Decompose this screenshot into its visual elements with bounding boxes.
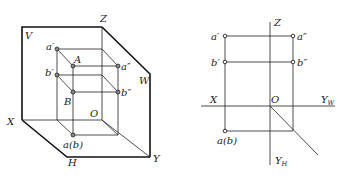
label-a-dprime: a″ <box>297 31 307 42</box>
label-Y-W: YW <box>321 94 336 107</box>
point-b-prime <box>55 73 59 77</box>
45-degree-line <box>270 106 318 155</box>
projection-diagram: Z V W X H Y O a′ A a″ b′ B b″ a(b) Z a′ … <box>0 0 340 178</box>
label-a-dprime: a″ <box>121 61 131 72</box>
point-a-prime <box>223 34 227 38</box>
label-O: O <box>90 108 98 119</box>
label-A: A <box>73 54 81 65</box>
label-b-prime: b′ <box>45 67 54 78</box>
label-a-prime: a′ <box>211 31 220 42</box>
label-b-prime: b′ <box>211 57 220 68</box>
label-X: X <box>209 94 218 105</box>
label-b-dprime: b″ <box>297 57 307 68</box>
label-Y-H: YH <box>275 155 288 168</box>
label-Z: Z <box>273 17 282 28</box>
proj-line <box>102 49 118 66</box>
label-O: O <box>271 94 279 105</box>
label-a-prime: a′ <box>46 41 55 52</box>
label-V: V <box>25 30 34 41</box>
label-X: X <box>6 116 15 127</box>
point-ab <box>71 133 75 137</box>
proj-line <box>102 75 118 92</box>
point-b-dprime <box>116 90 120 94</box>
point-a-dprime <box>291 34 295 38</box>
point-b-dprime <box>291 60 295 64</box>
point-a-dprime <box>116 64 120 68</box>
h-plane-frame <box>22 120 150 157</box>
proj-line <box>57 75 73 92</box>
label-W: W <box>139 75 150 86</box>
point-a-prime <box>55 47 59 51</box>
y-axis <box>102 120 150 157</box>
point-b-prime <box>223 60 227 64</box>
label-ab: a(b) <box>217 135 237 146</box>
v-plane-frame <box>22 27 102 120</box>
point-B <box>71 90 75 94</box>
label-Y: Y <box>153 153 161 164</box>
proj-line <box>102 120 118 135</box>
label-B: B <box>63 96 71 107</box>
label-b-dprime: b″ <box>121 87 131 98</box>
label-ab: a(b) <box>63 139 83 150</box>
label-Z: Z <box>99 13 108 24</box>
left-3d-projection: Z V W X H Y O a′ A a″ b′ B b″ a(b) <box>6 13 161 168</box>
proj-line <box>57 49 73 66</box>
proj-line <box>57 120 73 135</box>
label-H: H <box>67 157 77 168</box>
point-ab <box>223 129 227 133</box>
right-orthographic-projection: Z a′ a″ b′ b″ X O YW a(b) YH <box>201 17 336 168</box>
